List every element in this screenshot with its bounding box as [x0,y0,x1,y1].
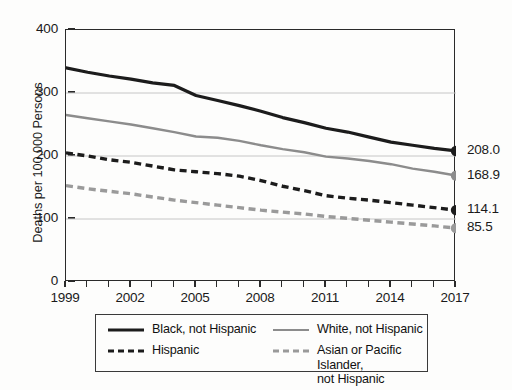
series-line [66,115,456,176]
series-line [66,68,456,151]
endpoint-marker [451,170,456,180]
series-line [66,153,456,210]
legend-swatch-solid [107,323,145,337]
legend-entry: Asian or Pacific Islander, not Hispanic [272,343,427,387]
endpoint-value-label: 168.9 [467,168,500,182]
y-tick-label: 200 [18,148,58,162]
legend-label: Black, not Hispanic [152,322,256,337]
x-tick-label: 2005 [180,291,209,305]
endpoint-value-label: 208.0 [467,143,500,157]
legend-swatch-dashed [272,344,310,358]
legend-swatch-dashed [107,344,145,358]
x-tick-label: 2011 [311,291,339,305]
series-canvas [66,30,456,282]
plot-area [65,29,455,281]
chart-figure: Deaths per 100,000 Persons 4003002001000… [0,0,512,390]
legend-entry: Black, not Hispanic [107,322,256,337]
endpoint-marker [451,205,456,215]
legend: Black, not HispanicHispanicWhite, not Hi… [95,314,428,372]
y-tick-label: 100 [18,211,58,225]
x-tick-label: 2008 [245,291,274,305]
endpoint-marker [451,223,456,233]
x-tick-label: 1999 [50,291,79,305]
endpoint-value-label: 85.5 [467,220,492,234]
endpoint-marker [451,146,456,156]
x-tick-label: 2002 [115,291,144,305]
series-line [66,186,456,229]
legend-label: Asian or Pacific Islander, not Hispanic [317,343,427,387]
endpoint-value-label: 114.1 [467,202,499,216]
legend-entry: Hispanic [107,343,199,358]
y-tick-label: 0 [18,274,58,288]
y-tick-label: 300 [18,85,58,99]
y-axis: 4003002001000 [10,0,58,390]
x-tick-label: 2017 [440,291,469,305]
legend-entry: White, not Hispanic [272,322,423,337]
legend-swatch-solid [272,323,310,337]
legend-label: White, not Hispanic [317,322,423,337]
y-tick-label: 400 [18,22,58,36]
legend-label: Hispanic [152,343,199,358]
x-tick-label: 2014 [375,291,404,305]
